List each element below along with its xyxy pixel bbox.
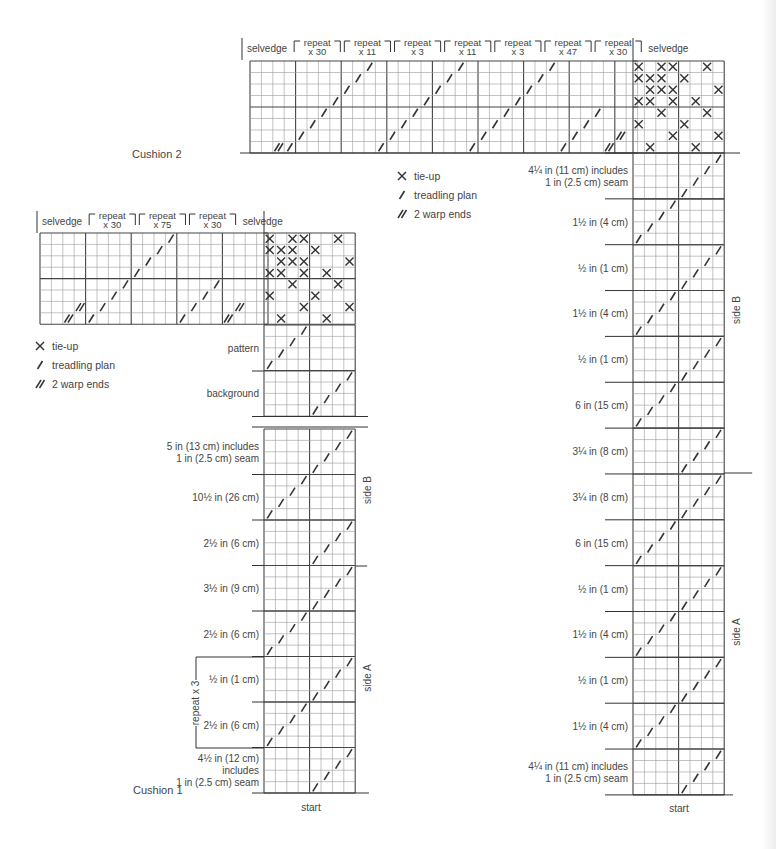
treadling-slash-icon — [693, 774, 698, 782]
header-selvedge: selvedge — [247, 43, 287, 54]
treadling-slash-icon — [682, 464, 687, 472]
tie-up-x-icon — [658, 74, 666, 82]
treadling-slash-icon — [38, 361, 43, 369]
tie-up-x-icon — [669, 97, 677, 105]
treadling-slash-icon — [515, 97, 520, 105]
cushion-2-treadling-grid — [633, 336, 724, 382]
treadling-slash-icon — [290, 715, 295, 723]
treadling-slash-icon — [584, 120, 589, 128]
treadling-slash-icon — [481, 132, 486, 140]
treadling-slash-icon — [267, 647, 272, 655]
section-label: 1½ in (4 cm) — [572, 217, 628, 228]
treadling-slash-icon — [705, 579, 710, 587]
treadling-slash-icon — [693, 178, 698, 186]
section-label: 4½ in (12 cm) — [198, 753, 259, 764]
treadling-slash-icon — [310, 120, 315, 128]
header-repeat-count: x 30 — [103, 219, 121, 230]
header-selvedge: selvedge — [648, 43, 688, 54]
treadling-slash-icon — [324, 772, 329, 780]
treadling-slash-icon — [716, 476, 721, 484]
treadling-slash-icon — [636, 418, 641, 426]
tie-up-x-icon — [311, 292, 319, 300]
side-b-label: side B — [731, 296, 742, 324]
treadling-slash-icon — [134, 269, 139, 277]
treadling-slash-icon — [267, 510, 272, 518]
tie-up-x-icon — [715, 86, 723, 94]
treadling-slash-icon — [279, 726, 284, 734]
tie-up-x-icon — [277, 246, 285, 254]
section-label: 3½ in (9 cm) — [203, 583, 259, 594]
treadling-slash-icon — [336, 384, 341, 392]
draft-svg: selvedgerepeatx 30repeatx 11repeatx 3rep… — [0, 0, 776, 849]
section-label: 1 in (2.5 cm) seam — [545, 773, 628, 784]
treadling-slash-icon — [550, 63, 555, 71]
cushion-2-threading-grid — [250, 61, 638, 153]
section-label: 4¼ in (11 cm) includes — [528, 165, 628, 176]
section-label: ½ in (1 cm) — [578, 675, 628, 686]
treadling-slash-icon — [682, 189, 687, 197]
cushion-2-treadling-grid — [633, 428, 724, 474]
treadling-slash-icon — [636, 648, 641, 656]
section-label: 6 in (15 cm) — [575, 538, 628, 549]
tie-up-x-icon — [277, 315, 285, 323]
cushion-2-treadling-grid — [633, 703, 724, 749]
section-label: 6 in (15 cm) — [575, 400, 628, 411]
treadling-slash-icon — [347, 658, 352, 666]
header-repeat-count: x 75 — [153, 219, 171, 230]
treadling-slash-icon — [301, 704, 306, 712]
double-slash-icon — [398, 210, 407, 218]
treadling-slash-icon — [716, 751, 721, 759]
treadling-slash-icon — [538, 74, 543, 82]
tie-up-x-icon — [669, 63, 677, 71]
cushion-2-treadling-grid — [633, 520, 724, 566]
treadling-slash-icon — [648, 636, 653, 644]
treadling-slash-icon — [290, 624, 295, 632]
tie-up-x-icon — [346, 303, 354, 311]
treadling-slash-icon — [693, 361, 698, 369]
treadling-slash-icon — [299, 132, 304, 140]
treadling-slash-icon — [705, 671, 710, 679]
cushion-2-title: Cushion 2 — [132, 148, 182, 160]
cushion-1-treadling-grid — [264, 611, 355, 657]
treadling-slash-icon — [636, 327, 641, 335]
tie-up-x-icon — [300, 235, 308, 243]
treadling-slash-icon — [693, 590, 698, 598]
legend-label-0: tie-up — [414, 170, 440, 182]
treadling-slash-icon — [595, 109, 600, 117]
treadling-slash-icon — [313, 692, 318, 700]
cushion-1-treadling-grid — [264, 657, 355, 703]
double-slash-icon — [605, 143, 614, 151]
treadling-slash-icon — [648, 544, 653, 552]
legend-label-2: 2 warp ends — [414, 208, 471, 220]
treadling-slash-icon — [693, 499, 698, 507]
cushion-2-treadling-grid — [633, 199, 724, 245]
section-label: 2½ in (6 cm) — [203, 538, 259, 549]
tie-up-x-icon — [635, 74, 643, 82]
treadling-slash-icon — [682, 785, 687, 793]
treadling-slash-icon — [301, 476, 306, 484]
treadling-slash-icon — [436, 86, 441, 94]
treadling-slash-icon — [157, 246, 162, 254]
treadling-slash-icon — [716, 659, 721, 667]
treadling-slash-icon — [470, 143, 475, 151]
treadling-slash-icon — [705, 487, 710, 495]
start-label: start — [301, 802, 321, 813]
header-repeat-count: x 11 — [459, 46, 476, 57]
tie-up-x-icon — [646, 86, 654, 94]
treadling-slash-icon — [659, 625, 664, 633]
tie-up-x-icon — [277, 258, 285, 266]
cushion-2-treadling-grid — [633, 566, 724, 612]
tie-up-x-icon — [346, 258, 354, 266]
treadling-slash-icon — [648, 224, 653, 232]
double-slash-icon — [36, 380, 45, 388]
treadling-slash-icon — [670, 292, 675, 300]
double-slash-icon — [617, 132, 626, 140]
treadling-slash-icon — [682, 281, 687, 289]
treadling-slash-icon — [670, 522, 675, 530]
treadling-slash-icon — [413, 109, 418, 117]
tie-up-x-icon — [289, 246, 297, 254]
treadling-slash-icon — [716, 338, 721, 346]
tie-up-x-icon — [646, 97, 654, 105]
legend-label-1: treadling plan — [414, 189, 477, 201]
tie-up-x-icon — [334, 280, 342, 288]
